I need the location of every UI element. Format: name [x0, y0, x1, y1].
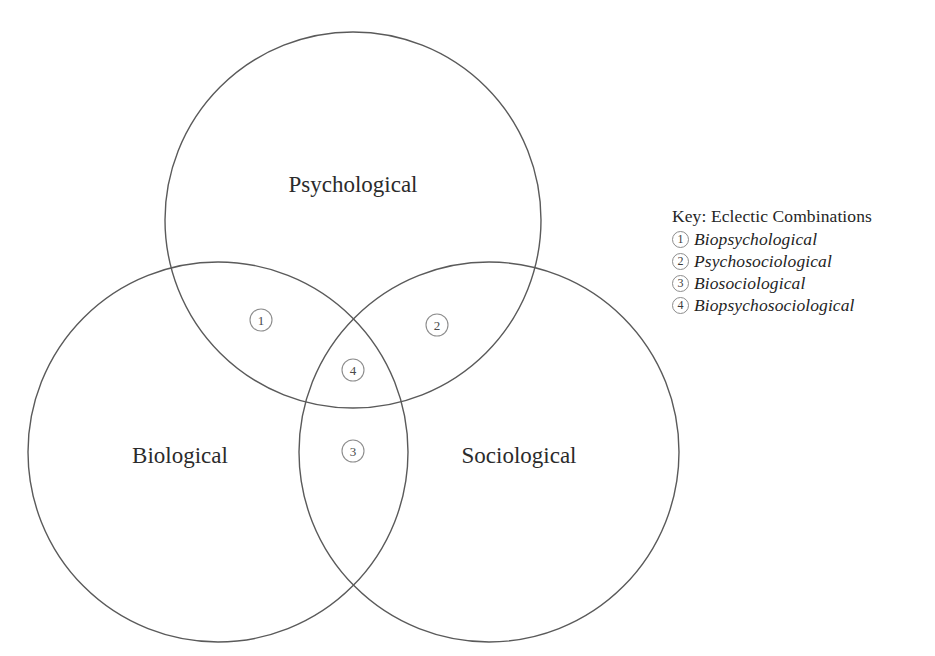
intersection-marker-4-number: 4 — [350, 363, 357, 378]
key-badge-4-icon: 4 — [672, 297, 689, 314]
region-label-psychological: Psychological — [288, 172, 417, 197]
venn-diagram: Psychological Biological Sociological 1 … — [0, 0, 935, 656]
key-item-2: 2 Psychosociological — [672, 251, 930, 272]
key-item-2-label: Psychosociological — [694, 251, 832, 272]
intersection-marker-4: 4 — [342, 359, 364, 381]
key-item-1-label: Biopsychological — [694, 229, 817, 250]
key-item-1: 1 Biopsychological — [672, 229, 930, 250]
key-legend: Key: Eclectic Combinations 1 Biopsycholo… — [672, 206, 930, 317]
key-item-4: 4 Biopsychosociological — [672, 295, 930, 316]
key-item-3-label: Biosociological — [694, 273, 805, 294]
key-badge-4-number: 4 — [672, 297, 689, 314]
intersection-marker-1: 1 — [250, 309, 272, 331]
key-badge-1-icon: 1 — [672, 231, 689, 248]
key-item-3: 3 Biosociological — [672, 273, 930, 294]
key-badge-3-icon: 3 — [672, 275, 689, 292]
key-list: 1 Biopsychological 2 Psychosociological … — [672, 229, 930, 316]
intersection-marker-3-number: 3 — [350, 444, 357, 459]
intersection-marker-3: 3 — [342, 440, 364, 462]
intersection-marker-2: 2 — [426, 314, 448, 336]
intersection-marker-1-number: 1 — [258, 313, 265, 328]
venn-circle-psychological — [165, 32, 541, 408]
key-title: Key: Eclectic Combinations — [672, 206, 930, 227]
region-label-sociological: Sociological — [462, 443, 577, 468]
key-badge-1-number: 1 — [672, 231, 689, 248]
key-badge-2-icon: 2 — [672, 253, 689, 270]
region-label-biological: Biological — [132, 443, 228, 468]
key-badge-2-number: 2 — [672, 253, 689, 270]
key-badge-3-number: 3 — [672, 275, 689, 292]
key-item-4-label: Biopsychosociological — [694, 295, 855, 316]
intersection-marker-2-number: 2 — [434, 318, 441, 333]
